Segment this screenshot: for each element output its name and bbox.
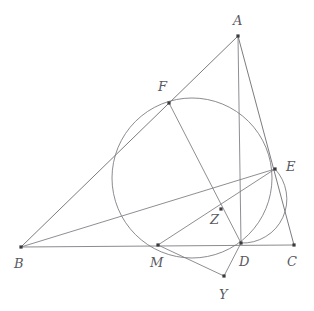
point-F: [167, 101, 170, 104]
point-label-E: E: [286, 160, 296, 173]
point-Y: [222, 274, 225, 277]
segment-chord-FD: [169, 103, 241, 243]
segment-side-AC: [238, 36, 294, 245]
segment-MY: [158, 245, 224, 276]
point-label-D: D: [239, 255, 249, 268]
point-label-C: C: [287, 255, 297, 268]
point-E: [273, 167, 276, 170]
segment-side-AB: [21, 36, 238, 247]
point-label-Y: Y: [219, 288, 228, 301]
segment-cevian-AD: [238, 36, 241, 243]
point-label-F: F: [158, 80, 167, 93]
segment-chord-ME: [158, 169, 275, 245]
point-label-A: A: [233, 14, 242, 27]
point-B: [19, 245, 22, 248]
point-label-M: M: [150, 256, 163, 269]
incircle: [112, 98, 272, 258]
point-C: [292, 243, 295, 246]
arc-E-to-D: [241, 169, 287, 243]
point-label-B: B: [14, 257, 24, 270]
point-label-Z: Z: [210, 213, 219, 226]
point-D: [239, 241, 242, 244]
point-M: [156, 243, 159, 246]
point-A: [236, 34, 239, 37]
point-Z: [219, 207, 222, 210]
geometry-figure: A B C D E F M Y Z: [0, 0, 314, 311]
